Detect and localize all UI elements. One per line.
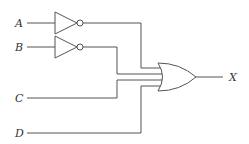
output-label-x: X bbox=[228, 71, 238, 84]
input-a-path bbox=[27, 12, 162, 68]
logic-circuit-diagram: A B C D X bbox=[0, 0, 249, 144]
input-label-d: D bbox=[14, 127, 24, 140]
inversion-bubble-a bbox=[77, 20, 83, 26]
inversion-bubble-b bbox=[77, 44, 83, 50]
not-gate-b bbox=[55, 36, 77, 58]
wire-b-out bbox=[83, 47, 164, 74]
wire-d bbox=[27, 86, 162, 133]
input-label-b: B bbox=[14, 41, 23, 54]
not-gate-a bbox=[55, 12, 77, 34]
wire-c bbox=[27, 80, 164, 98]
input-label-c: C bbox=[15, 92, 24, 105]
wire-a-out bbox=[83, 23, 162, 68]
input-label-a: A bbox=[14, 17, 23, 30]
or-gate bbox=[158, 63, 196, 91]
